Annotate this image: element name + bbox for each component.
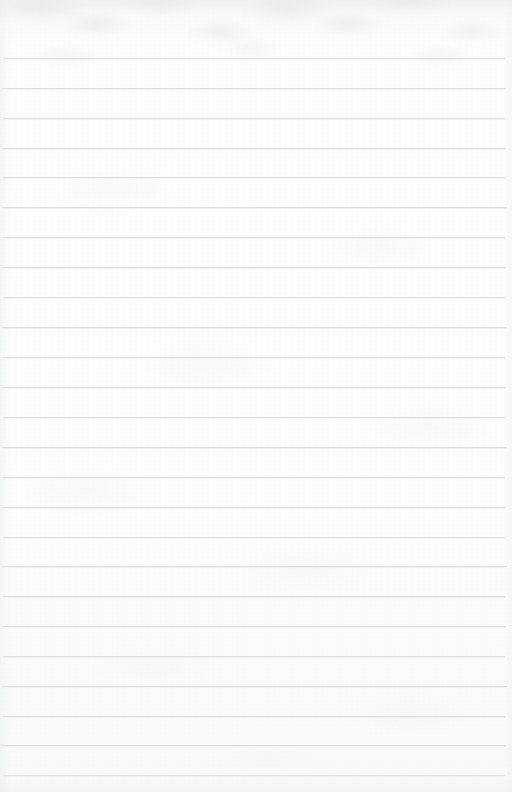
lined-paper-page bbox=[0, 0, 512, 792]
writing-area[interactable] bbox=[3, 30, 507, 790]
